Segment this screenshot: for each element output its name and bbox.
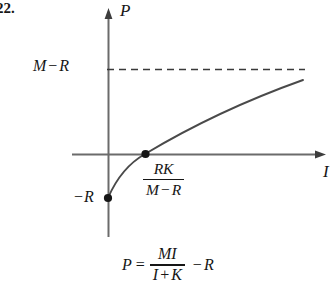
x-intercept-numerator: RK [143, 161, 184, 177]
x-intercept-denominator-lhs: M [146, 181, 159, 198]
equation-caption: P = MI I+K −R [122, 246, 214, 284]
x-axis [72, 150, 326, 158]
equation-denominator-op: + [158, 266, 171, 283]
x-axis-label: I [323, 163, 329, 180]
x-intercept-denominator-op: − [159, 181, 172, 198]
y-axis-label: P [120, 2, 130, 19]
equation-equals: = [132, 257, 150, 273]
curve-path [108, 80, 303, 198]
y-intercept-sign: − [74, 188, 84, 205]
equation-denominator: I+K [150, 267, 185, 284]
x-intercept-denominator-rhs: R [172, 181, 181, 198]
equation-denominator-rhs: K [171, 266, 182, 283]
asymptote-label-rhs: R [59, 57, 69, 74]
x-intercept-label: RK M−R [143, 161, 184, 198]
x-intercept-denominator: M−R [143, 182, 184, 198]
y-intercept-dot [104, 194, 112, 202]
y-intercept-value: R [84, 188, 94, 205]
equation-trailing: −R [185, 257, 214, 273]
figure-container: 22. P I M−R −R RK M−R [0, 0, 332, 290]
equation-trailing-term: R [204, 256, 214, 273]
y-axis [105, 8, 113, 237]
equation-trailing-op: − [191, 256, 204, 273]
asymptote-label-op: − [46, 57, 59, 74]
equation-numerator: MI [150, 246, 185, 263]
x-intercept-fraction: RK M−R [143, 161, 184, 198]
x-intercept-dot [141, 150, 149, 158]
equation-fraction: MI I+K [150, 246, 185, 284]
asymptote-label: M−R [33, 58, 69, 74]
y-intercept-label: −R [74, 189, 94, 205]
equation-lhs: P [122, 257, 132, 273]
asymptote-label-lhs: M [33, 57, 46, 74]
